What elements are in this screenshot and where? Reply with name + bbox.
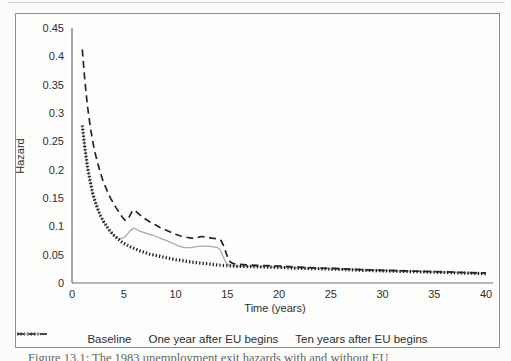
svg-text:Hazard: Hazard — [16, 138, 26, 173]
scan-artifact-line — [8, 2, 505, 3]
svg-text:0: 0 — [58, 277, 64, 289]
svg-text:5: 5 — [121, 288, 127, 300]
svg-text:0.05: 0.05 — [43, 249, 64, 261]
svg-text:Time (years): Time (years) — [244, 302, 305, 314]
legend-item-one-year: One year after EU begins — [149, 333, 279, 345]
svg-text:0.15: 0.15 — [43, 192, 64, 204]
figure-frame: 00.050.10.150.20.250.30.350.40.450510152… — [15, 13, 500, 348]
svg-text:25: 25 — [325, 288, 337, 300]
svg-text:35: 35 — [428, 288, 440, 300]
svg-text:30: 30 — [376, 288, 388, 300]
svg-text:0.45: 0.45 — [43, 22, 64, 34]
legend-label-baseline: Baseline — [87, 333, 131, 345]
legend-label-one-year: One year after EU begins — [149, 333, 279, 345]
legend-item-baseline: Baseline — [87, 333, 131, 345]
dashed-line-swatch-icon — [16, 330, 52, 338]
svg-text:0.25: 0.25 — [43, 135, 64, 147]
svg-text:0: 0 — [69, 288, 75, 300]
svg-text:0.2: 0.2 — [49, 164, 64, 176]
figure-caption: Figure 13.1: The 1983 unemployment exit … — [28, 351, 503, 361]
svg-text:20: 20 — [273, 288, 285, 300]
hazard-chart: 00.050.10.150.20.250.30.350.40.450510152… — [16, 14, 499, 347]
chart-legend: Baseline One year after EU begins Ten ye… — [16, 330, 499, 348]
svg-text:15: 15 — [221, 288, 233, 300]
svg-text:10: 10 — [169, 288, 181, 300]
svg-text:40: 40 — [480, 288, 492, 300]
svg-text:0.4: 0.4 — [49, 50, 64, 62]
svg-text:0.35: 0.35 — [43, 79, 64, 91]
legend-label-ten-years: Ten years after EU begins — [295, 333, 427, 345]
legend-item-ten-years: Ten years after EU begins — [295, 333, 427, 345]
svg-text:0.1: 0.1 — [49, 220, 64, 232]
svg-text:0.3: 0.3 — [49, 107, 64, 119]
